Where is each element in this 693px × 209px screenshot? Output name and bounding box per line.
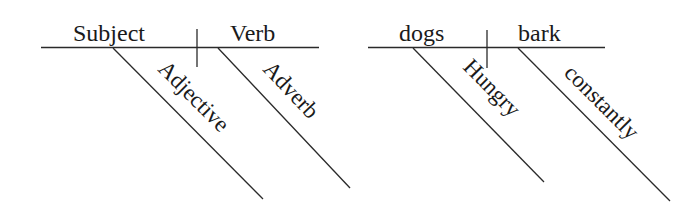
- subject-modifier-line: [113, 48, 263, 199]
- verb-modifier-word: Adverb: [258, 56, 324, 123]
- subject-word: dogs: [399, 20, 444, 46]
- verb-word: bark: [518, 20, 561, 46]
- subject-modifier-word: Hungry: [458, 54, 525, 122]
- diagram-template: Subject Verb Adjective Adverb: [41, 20, 350, 199]
- subject-word: Subject: [73, 20, 145, 46]
- subject-modifier-word: Adjective: [153, 56, 234, 137]
- verb-word: Verb: [230, 20, 275, 46]
- diagram-example: dogs bark Hungry constantly: [368, 20, 670, 201]
- sentence-diagrams: Subject Verb Adjective Adverb dogs bark …: [0, 0, 693, 209]
